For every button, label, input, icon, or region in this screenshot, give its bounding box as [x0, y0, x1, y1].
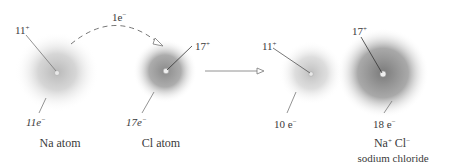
ionic-bond-diagram: 1e− 11+ 11e− Na atom 17+ 17e− Cl atom 11… — [0, 0, 462, 168]
cl-ion — [337, 28, 429, 118]
na-atom-caption: Na atom — [40, 137, 81, 150]
product-formula: Na+ Cl− — [374, 137, 410, 150]
na-nucleus-charge: 11+ — [15, 24, 30, 36]
cl-nucleus-charge: 17+ — [195, 40, 210, 52]
product-name: sodium chloride — [357, 152, 428, 165]
cl-electron-count: 17e− — [126, 116, 147, 128]
cl-atom-caption: Cl atom — [142, 137, 180, 150]
arrowhead-icon — [257, 68, 264, 74]
na-electron-count: 11e− — [26, 116, 46, 128]
cl-ion-nucleus-charge: 17+ — [352, 25, 367, 37]
na-ion-nucleus-charge: 11+ — [262, 40, 277, 52]
na-ion-electron-count: 10 e− — [274, 118, 297, 130]
cl-atom — [133, 39, 197, 113]
cl-ion-electron-count: 18 e− — [373, 118, 396, 130]
na-ion — [273, 41, 343, 113]
na-atom — [15, 32, 99, 113]
na-nucleus — [55, 71, 60, 76]
transfer-label: 1e− — [112, 11, 126, 23]
reaction-arrow — [205, 68, 264, 74]
